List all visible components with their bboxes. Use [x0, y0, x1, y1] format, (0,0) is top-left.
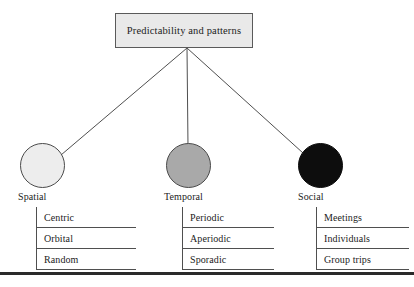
sub-list-temporal: Periodic Aperiodic Sporadic	[182, 207, 274, 270]
connector-line-temporal	[187, 48, 188, 147]
sub-item-label: Aperiodic	[190, 233, 231, 244]
sub-item-label: Sporadic	[190, 254, 226, 265]
filled-circle-icon-temporal	[166, 143, 211, 188]
sub-item-label: Individuals	[324, 233, 370, 244]
root-node-label: Predictability and patterns	[127, 25, 241, 36]
list-item: Group trips	[317, 249, 409, 270]
branch-label-spatial: Spatial	[18, 191, 46, 202]
list-item: Sporadic	[183, 249, 274, 270]
connector-line-social	[187, 48, 303, 153]
sub-item-label: Random	[44, 254, 79, 265]
list-item: Random	[37, 249, 136, 270]
list-item: Periodic	[183, 207, 274, 228]
sub-list-spatial: Centric Orbital Random	[36, 207, 136, 270]
list-item: Individuals	[317, 228, 409, 249]
sub-item-label: Periodic	[190, 212, 224, 223]
list-item: Aperiodic	[183, 228, 274, 249]
branch-label-social: Social	[298, 191, 324, 202]
sub-item-label: Group trips	[324, 254, 371, 265]
bottom-divider	[0, 272, 414, 275]
root-node-predictability-and-patterns: Predictability and patterns	[115, 13, 253, 48]
filled-circle-icon-social	[298, 143, 343, 188]
connector-line-spatial	[61, 48, 187, 155]
list-item: Centric	[37, 207, 136, 228]
branch-label-temporal: Temporal	[164, 191, 203, 202]
list-item: Orbital	[37, 228, 136, 249]
sub-item-label: Centric	[44, 212, 74, 223]
diagram-canvas: Predictability and patterns Spatial Cent…	[0, 0, 414, 287]
filled-circle-icon-spatial	[20, 143, 65, 188]
sub-item-label: Meetings	[324, 212, 362, 223]
sub-item-label: Orbital	[44, 233, 73, 244]
sub-list-social: Meetings Individuals Group trips	[316, 207, 409, 270]
list-item: Meetings	[317, 207, 409, 228]
